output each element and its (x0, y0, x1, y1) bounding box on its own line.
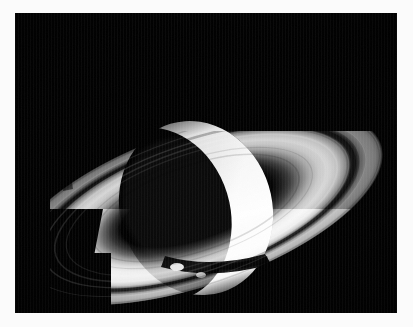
saturn-photograph (15, 13, 397, 313)
image-description: Backlit view of Saturn showing a bright … (0, 0, 1, 1)
image-page: Saturn Backlit view of Saturn showing a … (0, 0, 413, 327)
vignette (15, 13, 397, 313)
photograph-frame (15, 13, 397, 313)
image-title: Saturn (0, 0, 1, 1)
